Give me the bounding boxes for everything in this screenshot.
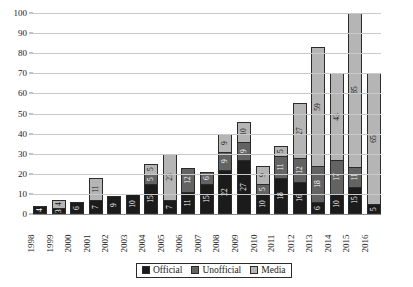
- bar-segment-media[interactable]: 9: [256, 166, 270, 184]
- legend-swatch-icon: [142, 266, 150, 274]
- bar-segment-unofficial[interactable]: 12: [293, 158, 307, 182]
- bar-segment-media[interactable]: 59: [311, 47, 325, 166]
- y-axis: 0102030405060708090100: [0, 13, 31, 215]
- bar-segment-official[interactable]: 7: [89, 200, 103, 214]
- bar-value-label: 9: [240, 149, 248, 153]
- bar-segment-official[interactable]: 10: [330, 194, 344, 214]
- bar-segment-official[interactable]: 22: [218, 170, 232, 214]
- plot-area: 4436117910551523712116159922109279510511…: [33, 13, 381, 215]
- grid-line: [33, 33, 381, 34]
- bar-segment-media[interactable]: 4: [52, 200, 66, 208]
- bar-value-label: 5: [277, 149, 285, 153]
- bar-segment-unofficial[interactable]: 11: [348, 167, 362, 187]
- grid-line: [33, 73, 381, 74]
- grid-line: [33, 154, 381, 155]
- stacked-bar-chart: 0102030405060708090100 44361179105515237…: [0, 0, 413, 287]
- bar-segment-official[interactable]: 27: [237, 160, 251, 214]
- bar-value-label: 6: [203, 176, 211, 180]
- bar-segment-official[interactable]: 18: [274, 178, 288, 214]
- bar-segment-official[interactable]: 10: [256, 194, 270, 214]
- chart-legend: OfficialUnofficialMedia: [136, 263, 292, 278]
- legend-label: Media: [261, 265, 285, 275]
- bar-value-label: 9: [221, 159, 229, 163]
- legend-label: Official: [153, 265, 182, 275]
- bar-value-label: 18: [314, 181, 322, 189]
- y-axis-tick-label: 60: [18, 89, 27, 98]
- bar-value-label: 9: [110, 203, 118, 207]
- bar-segment-official[interactable]: 7: [163, 200, 177, 214]
- grid-line: [33, 53, 381, 54]
- bar-value-label: 15: [203, 195, 211, 203]
- bar-value-label: 7: [92, 205, 100, 209]
- bar-segment-media[interactable]: 5: [144, 164, 158, 174]
- bar-segment-official[interactable]: 16: [293, 182, 307, 214]
- bar-segment-media[interactable]: 9: [218, 134, 232, 152]
- y-axis-tick-label: 90: [18, 29, 27, 38]
- bar-segment-official[interactable]: 11: [181, 192, 195, 214]
- y-axis-tick-label: 80: [18, 49, 27, 58]
- grid-line: [33, 93, 381, 94]
- bar-value-label: 10: [240, 128, 248, 136]
- y-axis-tick-label: 10: [18, 189, 27, 198]
- bar-segment-official[interactable]: 6: [311, 202, 325, 214]
- bar-segment-unofficial[interactable]: 12: [181, 168, 195, 192]
- bar-segment-official[interactable]: 15: [200, 184, 214, 214]
- bar-segment-official[interactable]: 6: [70, 202, 84, 214]
- bar-segment-official[interactable]: 10: [126, 194, 140, 214]
- y-axis-tick-label: 0: [23, 210, 28, 219]
- x-axis-tick-label: 2016: [360, 235, 387, 253]
- bar-segment-official[interactable]: 5: [367, 204, 381, 214]
- bar-segment-unofficial[interactable]: 18: [311, 166, 325, 202]
- legend-item[interactable]: Official: [142, 265, 182, 275]
- grid-line: [33, 134, 381, 135]
- bar-value-label: 7: [166, 205, 174, 209]
- grid-line: [33, 13, 381, 14]
- bar-value-label: 9: [221, 141, 229, 145]
- legend-item[interactable]: Media: [250, 265, 285, 275]
- bar-value-label: 5: [370, 207, 378, 211]
- bar-value-label: 4: [36, 208, 44, 212]
- bar-value-label: 5: [147, 177, 155, 181]
- bar-segment-official[interactable]: 3: [52, 208, 66, 214]
- grid-line: [33, 194, 381, 195]
- y-axis-tick-label: 30: [18, 149, 27, 158]
- x-axis-line: [33, 214, 381, 215]
- bar-segment-official[interactable]: 4: [33, 206, 47, 214]
- grid-line: [33, 174, 381, 175]
- bar-value-label: 65: [370, 135, 378, 143]
- bar-segment-unofficial[interactable]: 9: [237, 142, 251, 160]
- bar-value-label: 6: [314, 206, 322, 210]
- legend-label: Unofficial: [202, 265, 241, 275]
- bar-value-label: 6: [73, 206, 81, 210]
- bar-value-label: 5: [259, 188, 267, 192]
- bar-value-label: 4: [55, 203, 63, 207]
- bar-segment-media[interactable]: 11: [89, 178, 103, 200]
- bar-value-label: 59: [314, 103, 322, 111]
- bar-value-label: 10: [129, 200, 137, 208]
- bar-segment-unofficial[interactable]: 17: [330, 160, 344, 194]
- legend-swatch-icon: [191, 266, 199, 274]
- bar-value-label: 16: [296, 194, 304, 202]
- legend-swatch-icon: [250, 266, 258, 274]
- y-axis-tick-label: 100: [14, 9, 28, 18]
- bar-value-label: 10: [333, 200, 341, 208]
- bar-segment-media[interactable]: 27: [293, 103, 307, 157]
- y-axis-tick-label: 20: [18, 169, 27, 178]
- y-axis-tick-label: 70: [18, 69, 27, 78]
- legend-item[interactable]: Unofficial: [191, 265, 241, 275]
- bar-segment-unofficial[interactable]: 5: [144, 174, 158, 184]
- bar-segment-unofficial[interactable]: 5: [256, 184, 270, 194]
- bar-segment-official[interactable]: 15: [348, 187, 362, 214]
- bar-segment-media[interactable]: 43: [330, 73, 344, 159]
- bar-segment-official[interactable]: 9: [107, 196, 121, 214]
- x-axis-tick: 2016: [367, 217, 381, 257]
- bar-segment-media[interactable]: 85: [348, 13, 362, 167]
- bar-value-label: 27: [240, 183, 248, 191]
- x-axis-labels: 1998199920002001200220032004200520062007…: [33, 217, 381, 257]
- bar-segment-media[interactable]: 10: [237, 122, 251, 142]
- bar-segment-official[interactable]: 15: [144, 184, 158, 214]
- bar-value-label: 11: [92, 186, 100, 193]
- y-axis-tick-label: 40: [18, 129, 27, 138]
- bar-value-label: 11: [277, 164, 285, 171]
- bar-value-label: 12: [184, 177, 192, 185]
